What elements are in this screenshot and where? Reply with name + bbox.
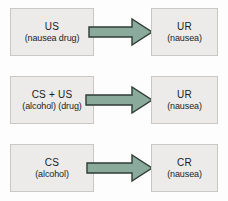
response-gloss: (nausea) [167,101,202,111]
conditioning-diagram: US (nausea drug) UR (nausea) CS + US (al… [0,0,228,201]
right-arrow-icon [85,85,153,115]
response-box-ur: UR (nausea) [151,76,218,124]
stimulus-term: CS + US [32,89,73,101]
right-arrow-icon [88,17,153,47]
response-gloss: (nausea) [167,33,202,43]
response-term: UR [177,89,192,101]
stimulus-term: US [45,21,59,33]
response-box-cr: CR (nausea) [151,144,218,192]
diagram-row-conditioned: CS (alcohol) CR (nausea) [0,144,228,193]
response-term: CR [177,157,192,169]
response-term: UR [177,21,192,33]
stimulus-box-cs: CS (alcohol) [10,144,94,192]
stimulus-gloss: (alcohol) [35,169,69,179]
stimulus-gloss: (nausea drug) [25,33,80,43]
stimulus-gloss: (alcohol) (drug) [22,101,81,111]
response-box-ur: UR (nausea) [151,8,218,56]
stimulus-box-us: US (nausea drug) [10,8,94,56]
right-arrow-icon [86,153,153,183]
response-gloss: (nausea) [167,169,202,179]
diagram-row-pairing: CS + US (alcohol) (drug) UR (nausea) [0,76,228,125]
stimulus-term: CS [45,157,59,169]
diagram-row-unconditioned: US (nausea drug) UR (nausea) [0,8,228,57]
stimulus-box-cs-plus-us: CS + US (alcohol) (drug) [10,76,94,124]
